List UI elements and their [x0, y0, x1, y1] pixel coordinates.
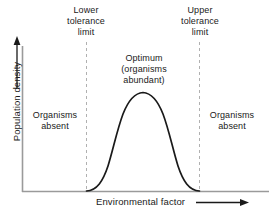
x-axis-label: Environmental factor — [96, 196, 185, 207]
x-axis-arrow-icon — [240, 199, 249, 206]
y-axis-label: Population density — [11, 43, 22, 161]
organisms-absent-left-label: Organisms absent — [24, 110, 86, 132]
organisms-absent-right-label: Organisms absent — [200, 110, 264, 132]
upper-tolerance-limit-label: Upper tolerance limit — [162, 5, 238, 38]
bell-curve-tolerance-chart: Lower tolerance limit Upper tolerance li… — [0, 0, 269, 212]
lower-tolerance-limit-label: Lower tolerance limit — [48, 5, 124, 38]
population-density-curve — [87, 93, 200, 192]
optimum-label: Optimum (organisms abundant) — [105, 53, 183, 86]
